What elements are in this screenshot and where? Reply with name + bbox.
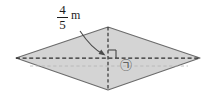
figure-canvas — [0, 0, 216, 100]
geometry-figure: 4 5 m ㉠ — [0, 0, 216, 100]
